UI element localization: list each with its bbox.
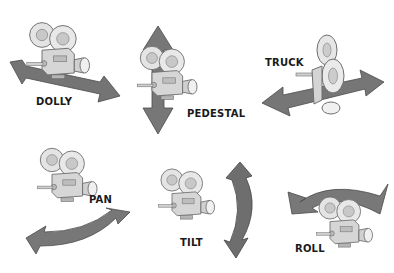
roll-label: ROLL [295,243,325,254]
pan-label: PAN [89,194,112,205]
pan-panel [26,148,130,254]
pan-arrow-icon [26,208,130,254]
dolly-panel [10,23,120,102]
camera-movements-illustration [0,0,394,273]
truck-label: TRUCK [265,57,304,68]
tilt-arrow-icon [224,162,252,258]
dolly-label: DOLLY [36,96,72,107]
tilt-camera-icon [158,169,214,219]
tilt-panel [158,162,252,258]
pedestal-camera-icon [138,46,197,99]
tilt-label: TILT [180,237,203,248]
pedestal-label: PEDESTAL [187,108,245,119]
truck-panel [262,35,384,116]
roll-panel [288,184,388,247]
